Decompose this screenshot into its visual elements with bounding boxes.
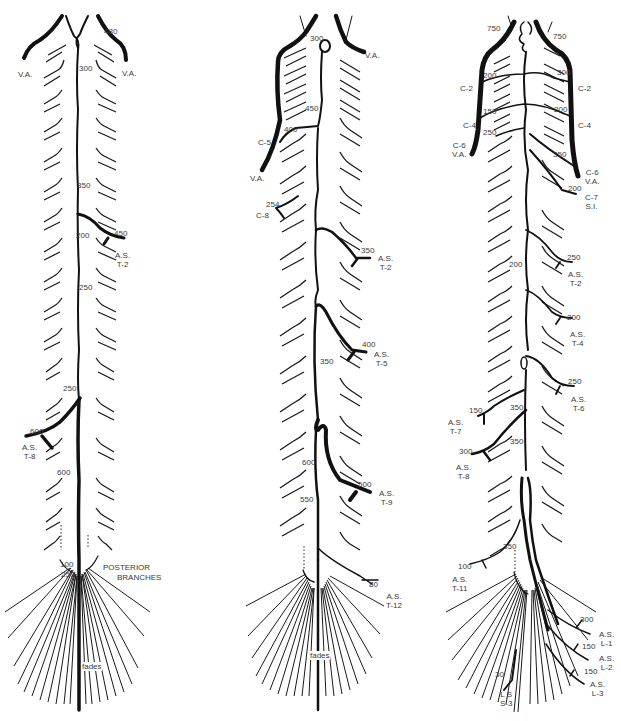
artery-segment-label: A.S. T-4 <box>570 330 585 348</box>
artery-segment-label: A.S. T-11 <box>452 575 467 593</box>
value-label: 300 <box>580 615 593 624</box>
value-label: 200 <box>567 313 580 322</box>
segment-label: C-4 <box>463 121 476 130</box>
value-label: 150 <box>483 107 496 116</box>
value-label: 200 <box>568 184 581 193</box>
value-label: 250 <box>567 253 580 262</box>
segment-label: C-6 V.A. <box>585 168 599 186</box>
value-label: 150 <box>584 667 597 676</box>
value-label: 250 <box>568 377 581 386</box>
value-label: 300 <box>459 447 472 456</box>
artery-segment-label: A.S. T-7 <box>448 418 463 436</box>
artery-segment-label: A.S. T-2 <box>568 270 583 288</box>
segment-label: C-7 S.I. <box>585 193 598 211</box>
panel-right-labels: 750 750 200 300 C-2 C-2 150 200 C-4 C-4 … <box>0 0 621 721</box>
value-label: 350 <box>510 437 523 446</box>
segment-label: C-2 <box>460 84 473 93</box>
value-label: 350 <box>553 150 566 159</box>
value-label: 200 <box>509 260 522 269</box>
artery-segment-label: A.S. L-1 <box>599 630 614 648</box>
value-label: 100 <box>458 562 471 571</box>
artery-segment-label: L S S-3 <box>500 690 512 708</box>
value-label: 150 <box>469 406 482 415</box>
artery-segment-label: A.S. L-2 <box>599 654 614 672</box>
value-label: 150 <box>582 642 595 651</box>
value-label: 750 <box>553 32 566 41</box>
value-label: 350 <box>510 403 523 412</box>
segment-label: C-2 <box>578 84 591 93</box>
value-label: 200 <box>554 105 567 114</box>
artery-segment-label: A.S. T-6 <box>571 395 586 413</box>
segment-label: C-6 V.A. <box>452 141 466 159</box>
value-label: 750 <box>487 24 500 33</box>
artery-segment-label: A.S. L-3 <box>590 680 605 698</box>
value-label: 30 <box>495 670 504 679</box>
value-label: 250 <box>483 128 496 137</box>
segment-label: C-4 <box>578 121 591 130</box>
value-label: 350 <box>503 542 516 551</box>
artery-segment-label: A.S. T-8 <box>456 463 471 481</box>
value-label: 200 <box>483 71 496 80</box>
value-label: 300 <box>557 68 570 77</box>
